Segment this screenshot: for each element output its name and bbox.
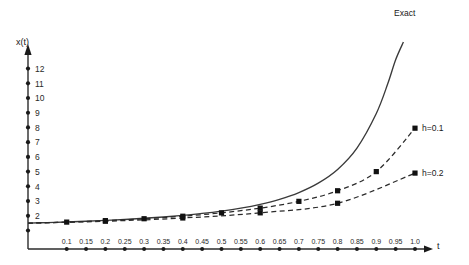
y-tick-dot	[26, 111, 30, 115]
y-tick-label: 12	[35, 64, 45, 74]
y-tick-label: 10	[35, 93, 45, 103]
x-tick-label: 0.55	[234, 238, 248, 245]
y-tick-dot	[26, 155, 30, 159]
x-tick-dot	[258, 247, 262, 251]
x-tick-label: 0.25	[118, 238, 132, 245]
y-tick-dot	[26, 81, 30, 85]
x-tick-label: 0.95	[389, 238, 403, 245]
data-point-marker	[219, 210, 224, 215]
x-tick-dot	[374, 247, 378, 251]
y-tick-dot	[26, 125, 30, 129]
data-point-marker	[64, 220, 69, 225]
y-axis-group: 23456789101112	[24, 44, 44, 249]
data-point-marker	[103, 219, 108, 224]
y-tick-dot	[26, 170, 30, 174]
data-point-marker	[412, 126, 417, 131]
y-tick-label: 3	[35, 196, 40, 206]
x-tick-dot	[84, 247, 88, 251]
x-tick-label: 0.5	[217, 238, 227, 245]
x-tick-dot	[200, 247, 204, 251]
x-tick-label: 0.85	[350, 238, 364, 245]
series-label-h01: h=0.1	[422, 123, 444, 133]
y-tick-dot	[26, 214, 30, 218]
x-tick-dot	[103, 247, 107, 251]
y-tick-dot	[26, 96, 30, 100]
x-tick-label: 0.6	[255, 238, 265, 245]
y-tick-label: 4	[35, 182, 40, 192]
y-tick-dot	[26, 199, 30, 203]
y-tick-dot	[26, 184, 30, 188]
y-axis-title: x(t)	[16, 37, 29, 47]
x-tick-dot	[413, 247, 417, 251]
series-label-h02: h=0.2	[422, 168, 444, 178]
x-tick-dot	[297, 247, 301, 251]
x-tick-label: 0.1	[62, 238, 72, 245]
x-tick-label: 0.3	[139, 238, 149, 245]
x-tick-dot	[316, 247, 320, 251]
series-h02-markers	[103, 170, 418, 223]
data-point-marker	[142, 216, 147, 221]
y-tick-dot	[26, 140, 30, 144]
x-tick-label: 0.15	[79, 238, 93, 245]
x-tick-label: 0.9	[371, 238, 381, 245]
data-point-marker	[412, 170, 417, 175]
data-point-marker	[296, 199, 301, 204]
y-tick-label: 5	[35, 167, 40, 177]
y-tick-label: 7	[35, 137, 40, 147]
x-axis-title: t	[437, 241, 440, 251]
data-point-marker	[335, 188, 340, 193]
data-point-marker	[258, 210, 263, 215]
y-tick-dot	[26, 228, 30, 232]
x-tick-dot	[123, 247, 127, 251]
y-tick-dot	[26, 66, 30, 70]
x-tick-dot	[355, 247, 359, 251]
data-point-marker	[180, 215, 185, 220]
x-axis-tick-labels: 0.10.150.20.250.30.350.40.450.50.550.60.…	[62, 238, 420, 245]
x-tick-label: 0.65	[273, 238, 287, 245]
series-h01-line	[28, 128, 415, 223]
x-axis-arrowhead	[424, 245, 433, 252]
x-tick-label: 0.7	[294, 238, 304, 245]
series-exact-line	[28, 42, 403, 223]
data-point-marker	[258, 206, 263, 211]
y-tick-label: 8	[35, 123, 40, 133]
series-group	[28, 42, 418, 225]
data-point-marker	[374, 169, 379, 174]
x-tick-label: 0.2	[101, 238, 111, 245]
series-h01-markers	[64, 126, 418, 225]
y-tick-label: 6	[35, 152, 40, 162]
x-tick-dot	[336, 247, 340, 251]
y-tick-label: 11	[35, 79, 44, 89]
y-tick-label: 2	[35, 211, 40, 221]
x-tick-dot	[65, 247, 69, 251]
series-label-exact: Exact	[394, 8, 416, 18]
x-tick-label: 1.0	[410, 238, 420, 245]
chart-canvas: 23456789101112 0.10.150.20.250.30.350.40…	[0, 0, 469, 265]
x-tick-label: 0.45	[195, 238, 209, 245]
x-tick-dot	[142, 247, 146, 251]
x-tick-dot	[181, 247, 185, 251]
x-tick-label: 0.8	[333, 238, 343, 245]
x-tick-label: 0.75	[311, 238, 325, 245]
x-tick-dot	[278, 247, 282, 251]
numerical-ode-chart: 23456789101112 0.10.150.20.250.30.350.40…	[0, 0, 469, 265]
x-tick-label: 0.4	[178, 238, 188, 245]
x-tick-dot	[161, 247, 165, 251]
x-axis-group: 0.10.150.20.250.30.350.40.450.50.550.60.…	[28, 238, 433, 253]
series-h02-line	[28, 173, 415, 223]
y-tick-label: 9	[35, 108, 40, 118]
x-tick-dot	[239, 247, 243, 251]
x-tick-dot	[220, 247, 224, 251]
y-axis-tick-labels: 23456789101112	[35, 64, 45, 221]
x-tick-label: 0.35	[157, 238, 171, 245]
data-point-marker	[335, 201, 340, 206]
x-tick-dot	[394, 247, 398, 251]
